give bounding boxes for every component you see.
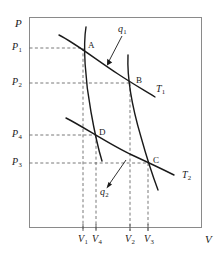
curve-label-T2: T2: [182, 170, 191, 182]
x-tick-V3-sub: 3: [150, 238, 154, 245]
diagram-canvas: [0, 0, 219, 257]
x-tick-V4-sub: 4: [98, 238, 102, 245]
x-axis-label: V: [205, 234, 212, 245]
y-tick-P4-sub: 4: [18, 133, 22, 140]
x-tick-label-V4: V4: [92, 234, 102, 246]
curve-label-T1: T1: [156, 84, 165, 96]
point-label-B: B: [136, 76, 142, 85]
y-tick-label-P2: P2: [12, 77, 22, 89]
x-tick-label-V1: V1: [78, 234, 88, 246]
y-tick-P1-sub: 1: [18, 46, 22, 53]
curve-T2-base: T: [182, 169, 188, 180]
annotation-label-q2: q2: [100, 187, 109, 199]
point-label-A: A: [88, 41, 95, 50]
y-tick-label-P3: P3: [12, 157, 22, 169]
x-tick-label-V2: V2: [125, 234, 135, 246]
annotation-q2-sub: 2: [105, 191, 109, 198]
y-tick-label-P1: P1: [12, 42, 22, 54]
adiabat-BC-curve: [128, 55, 158, 190]
annotation-q1-sub: 1: [123, 28, 127, 35]
curve-T2-sub: 2: [188, 174, 192, 181]
heat-in-arrow: [107, 36, 122, 66]
y-tick-P2-sub: 2: [18, 81, 22, 88]
x-tick-V2-sub: 2: [131, 238, 135, 245]
y-axis-label: P: [15, 18, 22, 29]
curve-T1-base: T: [156, 83, 162, 94]
heat-out-arrow: [107, 160, 127, 189]
x-tick-label-V3: V3: [144, 234, 154, 246]
y-tick-label-P4: P4: [12, 129, 22, 141]
point-label-D: D: [99, 128, 106, 137]
point-label-C: C: [153, 156, 159, 165]
isotherm-T1-curve: [59, 35, 155, 97]
curve-T1-sub: 1: [162, 88, 166, 95]
pv-diagram-figure: P V P1 P2 P4 P3 V1 V4 V2 V3 A B C D T1 T…: [0, 0, 219, 257]
y-tick-P3-sub: 3: [18, 161, 22, 168]
x-tick-V1-sub: 1: [84, 238, 88, 245]
annotation-label-q1: q1: [118, 24, 127, 36]
isotherm-T2-curve: [66, 118, 174, 175]
